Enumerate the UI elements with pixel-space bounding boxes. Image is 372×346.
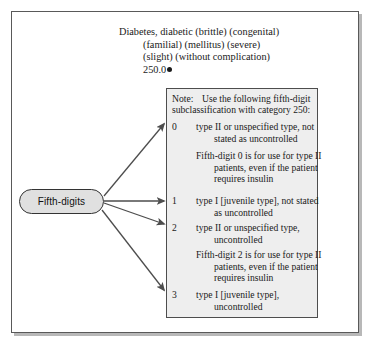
entry-0-line-1: type II or unspecified type, not: [196, 121, 314, 132]
note-2-line-2: patients, even if the patient: [196, 261, 324, 273]
heading-line-2: (familial) (mellitus) (severe): [119, 39, 349, 52]
fifth-digit-entry-0: 0 type II or unspecified type, not state…: [172, 121, 322, 144]
entry-0-line-2: stated as uncontrolled: [196, 133, 320, 145]
fifth-digit-value-2: 2: [172, 222, 182, 234]
fifth-digit-value-0: 0: [172, 121, 182, 133]
fifth-digit-note-2: Fifth-digit 2 is for use for type II pat…: [196, 249, 324, 284]
fifth-digits-node-label: Fifth-digits: [38, 196, 85, 207]
fifth-digit-text-1: type I [juvenile type], not stated as un…: [196, 195, 320, 218]
entry-2-line-2: uncontrolled: [196, 234, 320, 246]
heading-code: 250.0: [119, 64, 349, 77]
fifth-digit-text-2: type II or unspecified type, uncontrolle…: [196, 222, 320, 245]
note-0-line-1: Fifth-digit 0 is for use for type II: [196, 150, 322, 161]
fifth-digit-text-0: type II or unspecified type, not stated …: [196, 121, 320, 144]
heading-line-1: Diabetes, diabetic (brittle) (congenital…: [119, 26, 349, 39]
entry-1-line-1: type I [juvenile type], not stated: [196, 195, 319, 206]
fifth-digit-text-3: type I [juvenile type], uncontrolled: [196, 289, 320, 312]
note-line-1: Use the following fifth-digit: [202, 93, 310, 104]
diagram-page: Diabetes, diabetic (brittle) (congenital…: [0, 0, 372, 346]
entry-2-line-1: type II or unspecified type,: [196, 222, 300, 233]
entry-3-line-2: uncontrolled: [196, 301, 320, 313]
fifth-digit-value-1: 1: [172, 195, 182, 207]
note-line-2: subclassification with category 250:: [172, 104, 318, 115]
diagnosis-heading: Diabetes, diabetic (brittle) (congenital…: [119, 26, 349, 76]
fifth-digit-value-3: 3: [172, 289, 182, 301]
fifth-digits-node[interactable]: Fifth-digits: [19, 189, 104, 214]
note-header: Note:Use the following fifth-digit subcl…: [172, 93, 318, 116]
fifth-digit-entry-3: 3 type I [juvenile type], uncontrolled: [172, 289, 322, 312]
note-2-line-1: Fifth-digit 2 is for use for type II: [196, 249, 322, 260]
note-label: Note:: [172, 93, 202, 104]
note-0-line-3: requires insulin: [196, 173, 324, 185]
fifth-digit-entry-2: 2 type II or unspecified type, uncontrol…: [172, 222, 322, 245]
bullet-icon: [167, 67, 172, 72]
note-2-line-3: requires insulin: [196, 272, 324, 284]
fifth-digit-entry-1: 1 type I [juvenile type], not stated as …: [172, 195, 322, 218]
entry-1-line-2: as uncontrolled: [196, 207, 320, 219]
heading-line-3: (slight) (without complication): [119, 51, 349, 64]
entry-3-line-1: type I [juvenile type],: [196, 289, 279, 300]
heading-code-value: 250.0: [143, 64, 166, 75]
note-0-line-2: patients, even if the patient: [196, 162, 324, 174]
fifth-digit-note-0: Fifth-digit 0 is for use for type II pat…: [196, 150, 324, 185]
